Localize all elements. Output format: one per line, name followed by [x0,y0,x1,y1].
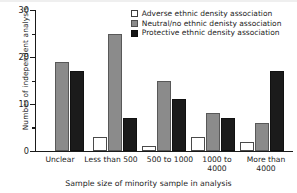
y-tick-minor-15 [32,81,36,82]
bar-more4000-adverse [240,142,254,151]
bar-1000to4000-protective [221,118,235,151]
y-tick-minor-5 [32,127,36,128]
x-label-more-than-4000: More than 4000 [235,155,297,174]
legend-item-neutral: Neutral/no ethnic denisty association [131,19,281,28]
y-tick-minor-25 [32,34,36,35]
x-axis-title: Sample size of minority sample in analys… [0,179,297,188]
bar-500to1000-neutral [157,81,171,152]
bar-1000to4000-neutral [206,113,220,151]
bar-group-unclear [44,10,88,151]
legend-swatch-protective-icon [131,30,138,37]
bar-less500-neutral [108,34,122,152]
x-label-less-than-500: Less than 500 [79,155,143,164]
scan-artifact [0,0,297,2]
bar-less500-adverse [93,137,107,151]
y-tick-label-30: 30 [3,6,29,14]
legend-swatch-adverse-icon [131,10,138,17]
bar-1000to4000-adverse [191,137,205,151]
legend-label-adverse: Adverse ethnic density association [142,10,273,18]
legend-item-adverse: Adverse ethnic density association [131,9,281,18]
bar-chart: Number of independent analysis 30 20 10 … [0,0,297,193]
bar-500to1000-protective [172,99,186,151]
y-tick-label-20: 20 [3,53,29,61]
legend-item-protective: Protective ethnic density association [131,29,281,38]
y-tick-10 [30,104,36,105]
y-tick-0 [30,151,36,152]
legend-label-protective: Protective ethnic density association [142,29,280,37]
x-label-more4000-line2: 4000 [235,164,297,173]
bar-more4000-protective [270,71,284,151]
y-tick-30 [30,10,36,11]
bar-unclear-protective [70,71,84,151]
bar-500to1000-adverse [142,146,156,151]
y-tick-label-10: 10 [3,100,29,108]
bar-more4000-neutral [255,123,269,151]
x-label-more4000-line1: More than [235,155,297,164]
y-tick-label-0: 0 [3,147,29,155]
legend-label-neutral: Neutral/no ethnic denisty association [142,20,282,28]
bar-less500-protective [123,118,137,151]
legend-swatch-neutral-icon [131,20,138,27]
bar-unclear-neutral [55,62,69,151]
legend: Adverse ethnic density association Neutr… [131,9,281,39]
y-axis-title: Number of independent analysis [21,0,30,139]
x-label-less500-line1: Less than 500 [79,155,143,164]
y-tick-20 [30,57,36,58]
